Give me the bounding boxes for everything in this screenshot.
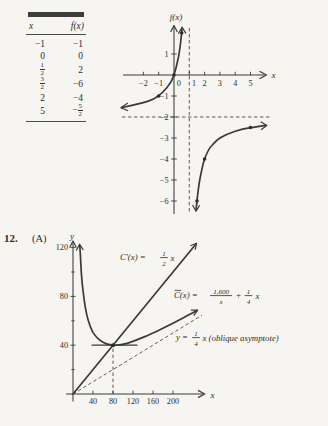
tick-label: 0 xyxy=(177,79,181,88)
tick-label: −2 xyxy=(139,79,148,88)
tick-label: 40 xyxy=(60,341,68,350)
tick-label: −3 xyxy=(160,134,169,143)
svg-text:x (oblique asymptote): x (oblique asymptote) xyxy=(202,333,279,343)
fig2-x-tick-labels: 40 80 120 160 200 xyxy=(89,397,179,406)
page-background: x f(x) −1 −1 0 0 12 2 32 −6 2 −4 xyxy=(0,0,328,426)
tick-label: 80 xyxy=(109,397,117,406)
fig1-x-tick-labels: −2 −1 0 1 2 3 4 5 xyxy=(139,79,253,88)
rational-function-figure: −2 −1 0 1 2 3 4 5 1 −1 −2 −3 −4 −5 −6 f(… xyxy=(0,0,328,230)
svg-text:y =: y = xyxy=(175,332,188,342)
svg-text:1: 1 xyxy=(162,250,166,258)
svg-text:4: 4 xyxy=(194,340,198,348)
svg-text:1: 1 xyxy=(194,330,198,338)
minimum-point-dot xyxy=(111,343,115,347)
fig1-x-axis-label: x xyxy=(271,70,277,80)
oblique-asymptote-equation-label: y = 1 4 x (oblique asymptote) xyxy=(175,330,279,348)
average-cost-equation-label: C(x) = 1,600 x + 1 4 x xyxy=(174,288,260,306)
fig1-y-tick-labels: 1 −1 −2 −3 −4 −5 −6 xyxy=(160,50,169,206)
tick-label: 4 xyxy=(233,79,237,88)
svg-text:C(x) =: C(x) = xyxy=(174,290,198,300)
svg-text:2: 2 xyxy=(162,260,166,268)
oblique-asymptote-line xyxy=(73,315,202,394)
tick-label: 1 xyxy=(192,79,196,88)
fig2-y-axis-label: y xyxy=(69,231,75,241)
cost-function-figure: 40 80 120 160 200 120 80 40 y x C′(x) = xyxy=(0,230,328,426)
tick-label: −4 xyxy=(160,155,169,164)
tick-label: −2 xyxy=(160,113,169,122)
function-curve-left-branch xyxy=(121,27,186,111)
tick-label: 3 xyxy=(218,79,222,88)
tick-label: −6 xyxy=(160,197,169,206)
marginal-cost-line xyxy=(73,243,197,394)
fig1-axes xyxy=(123,26,267,215)
svg-text:1: 1 xyxy=(247,288,251,296)
tick-label: 80 xyxy=(60,292,68,301)
svg-text:x: x xyxy=(218,298,223,306)
tick-label: 120 xyxy=(127,397,139,406)
fig1-y-axis-label: f(x) xyxy=(170,12,183,22)
svg-text:x: x xyxy=(170,253,175,263)
svg-text:C′(x) =: C′(x) = xyxy=(120,252,146,262)
tick-label: −1 xyxy=(154,79,163,88)
tick-label: 5 xyxy=(248,79,252,88)
svg-text:x: x xyxy=(255,291,260,301)
tick-label: 120 xyxy=(56,243,68,252)
fig2-x-axis-label: x xyxy=(210,390,216,400)
tick-label: 200 xyxy=(167,397,179,406)
tick-label: 2 xyxy=(203,79,207,88)
tick-label: 160 xyxy=(147,397,159,406)
marginal-cost-equation-label: C′(x) = 1 2 x xyxy=(120,250,175,268)
function-curve-right-branch xyxy=(193,122,267,212)
svg-text:1,600: 1,600 xyxy=(213,288,229,296)
tick-label: 40 xyxy=(89,397,97,406)
svg-text:+: + xyxy=(236,290,242,300)
tick-label: −5 xyxy=(160,176,169,185)
fig2-y-tick-labels: 120 80 40 xyxy=(56,243,68,350)
svg-text:4: 4 xyxy=(247,298,251,306)
tick-label: 1 xyxy=(164,50,168,59)
